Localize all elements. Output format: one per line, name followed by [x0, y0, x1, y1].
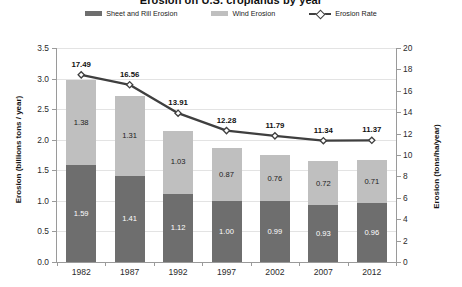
y-axis-left-tick-label: 3.0: [9, 75, 49, 83]
x-axis-label: 2012: [350, 268, 394, 277]
x-axis-tick: [348, 262, 349, 266]
legend-label-erosion-rate: Erosion Rate: [335, 10, 377, 17]
y-axis-right-tick: [397, 198, 401, 199]
y-axis-left-tick-label: 1.5: [9, 166, 49, 174]
y-axis-left-tick: [52, 79, 56, 80]
legend-label-sheet-and-rill-erosion: Sheet and Rill Erosion: [106, 10, 177, 17]
y-axis-right-tick: [397, 112, 401, 113]
x-axis-label: 2007: [301, 268, 345, 277]
line-point-value-label: 11.79: [255, 122, 295, 130]
y-axis-left-tick: [52, 201, 56, 202]
chart-container: Erosion on U.S. croplands by year Sheet …: [0, 0, 462, 287]
y-axis-left-tick-label: 3.5: [9, 44, 49, 52]
chart-title: Erosion on U.S. croplands by year: [0, 0, 462, 6]
chart-legend: Sheet and Rill Erosion Wind Erosion Eros…: [0, 10, 462, 17]
y-axis-left-tick-label: 2.0: [9, 136, 49, 144]
legend-item-wind-erosion: Wind Erosion: [211, 10, 275, 17]
y-axis-right-tick-label: 12: [403, 130, 443, 138]
legend-swatch-sheet-and-rill-erosion: [85, 11, 102, 16]
y-axis-right-tick: [397, 155, 401, 156]
y-axis-left-tick-label: 0.0: [9, 258, 49, 266]
line-point-value-label: 11.37: [352, 126, 392, 134]
line-series-layer: [57, 48, 396, 263]
diamond-marker-icon[interactable]: [78, 72, 84, 78]
y-axis-right-tick-label: 20: [403, 44, 443, 52]
y-axis-right-tick-label: 16: [403, 87, 443, 95]
y-axis-left-tick: [52, 262, 56, 263]
x-axis-label: 1992: [156, 268, 200, 277]
y-axis-right-tick-label: 18: [403, 65, 443, 73]
line-point-value-label: 12.28: [207, 117, 247, 125]
legend-item-erosion-rate: Erosion Rate: [309, 10, 377, 17]
plot-area: 0.00.51.01.52.02.53.03.5 024681012141618…: [57, 48, 396, 262]
y-axis-right-tick-label: 0: [403, 258, 443, 266]
x-axis-tick: [57, 262, 58, 266]
y-axis-left-title: Erosion (billions tons / year): [14, 70, 23, 230]
line-point-value-label: 11.34: [303, 127, 343, 135]
legend-swatch-erosion-rate: [309, 10, 331, 17]
x-axis-tick: [154, 262, 155, 266]
y-axis-left-tick: [52, 140, 56, 141]
x-axis-label: 1997: [205, 268, 249, 277]
x-axis-tick: [105, 262, 106, 266]
y-axis-left-tick: [52, 231, 56, 232]
y-axis-right-tick: [397, 91, 401, 92]
y-axis-right-tick-label: 2: [403, 237, 443, 245]
legend-label-wind-erosion: Wind Erosion: [232, 10, 275, 17]
x-axis-tick: [202, 262, 203, 266]
diamond-marker-icon[interactable]: [320, 138, 326, 144]
diamond-marker-icon[interactable]: [223, 127, 229, 133]
x-axis-tick: [251, 262, 252, 266]
y-axis-right-tick: [397, 219, 401, 220]
y-axis-right-tick: [397, 69, 401, 70]
line-point-value-label: 13.91: [158, 99, 198, 107]
y-axis-right-tick: [397, 262, 401, 263]
x-axis-label: 1987: [108, 268, 152, 277]
line-point-value-label: 16.56: [110, 71, 150, 79]
y-axis-left-tick-label: 0.5: [9, 227, 49, 235]
x-axis-tick: [299, 262, 300, 266]
y-axis-right-tick: [397, 48, 401, 49]
y-axis-left-tick-label: 2.5: [9, 105, 49, 113]
diamond-marker-icon[interactable]: [272, 133, 278, 139]
y-axis-right-tick: [397, 134, 401, 135]
y-axis-right-tick-label: 8: [403, 172, 443, 180]
line-point-value-label: 17.49: [61, 61, 101, 69]
y-axis-right-tick: [397, 176, 401, 177]
x-axis-tick: [396, 262, 397, 266]
y-axis-right-tick-label: 10: [403, 151, 443, 159]
diamond-marker-icon: [315, 9, 325, 19]
y-axis-left-tick: [52, 109, 56, 110]
y-axis-left-tick: [52, 48, 56, 49]
diamond-marker-icon[interactable]: [369, 137, 375, 143]
y-axis-left-tick: [52, 170, 56, 171]
legend-item-sheet-and-rill-erosion: Sheet and Rill Erosion: [85, 10, 177, 17]
y-axis-left-tick-label: 1.0: [9, 197, 49, 205]
y-axis-right-tick: [397, 241, 401, 242]
x-axis-label: 2002: [253, 268, 297, 277]
x-axis-label: 1982: [59, 268, 103, 277]
legend-swatch-wind-erosion: [211, 11, 228, 16]
y-axis-right-tick-label: 4: [403, 215, 443, 223]
y-axis-right-tick-label: 6: [403, 194, 443, 202]
y-axis-right-tick-label: 14: [403, 108, 443, 116]
